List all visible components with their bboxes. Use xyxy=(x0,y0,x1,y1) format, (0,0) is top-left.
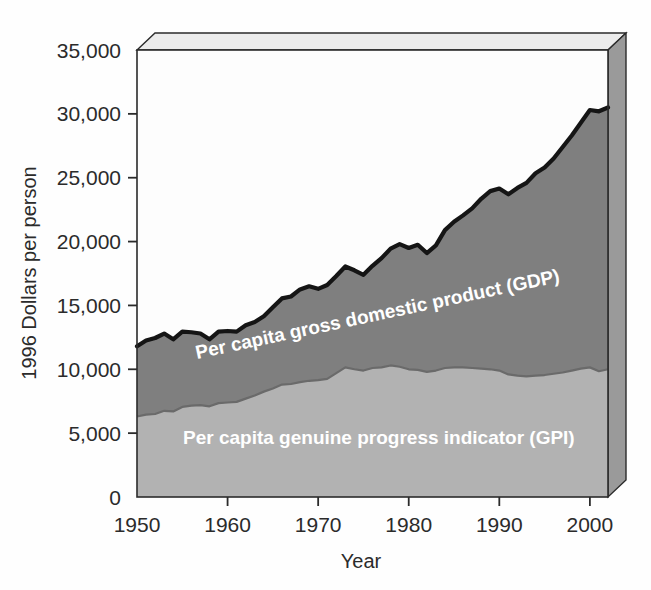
x-axis-tick-label: 1990 xyxy=(476,513,523,536)
y-axis-tick-label: 20,000 xyxy=(57,230,121,253)
x-axis-tick-label: 1960 xyxy=(204,513,251,536)
x-axis-tick-label: 1980 xyxy=(385,513,432,536)
y-axis-tick-label: 5,000 xyxy=(68,422,121,445)
x-axis-tick-label: 2000 xyxy=(567,513,614,536)
x-axis-title: Year xyxy=(341,550,382,572)
y-axis-tick-label: 25,000 xyxy=(57,166,121,189)
y-axis-tick-label: 0 xyxy=(109,486,121,509)
x-axis: 195019601970198019902000 xyxy=(114,497,614,536)
x-axis-tick-label: 1970 xyxy=(295,513,342,536)
chart-screenshot: 05,00010,00015,00020,00025,00030,00035,0… xyxy=(0,0,651,590)
area-chart: 05,00010,00015,00020,00025,00030,00035,0… xyxy=(0,0,651,590)
chart-depth-right-face xyxy=(608,33,626,497)
y-axis-tick-label: 10,000 xyxy=(57,358,121,381)
y-axis-tick-label: 35,000 xyxy=(57,39,121,62)
x-axis-tick-label: 1950 xyxy=(114,513,161,536)
chart-depth-top-face xyxy=(137,33,626,50)
y-axis-tick-label: 15,000 xyxy=(57,294,121,317)
gpi-series-annotation: Per capita genuine progress indicator (G… xyxy=(183,427,575,448)
y-axis-tick-label: 30,000 xyxy=(57,102,121,125)
y-axis: 05,00010,00015,00020,00025,00030,00035,0… xyxy=(57,39,137,509)
y-axis-title: 1996 Dollars per person xyxy=(18,166,40,379)
